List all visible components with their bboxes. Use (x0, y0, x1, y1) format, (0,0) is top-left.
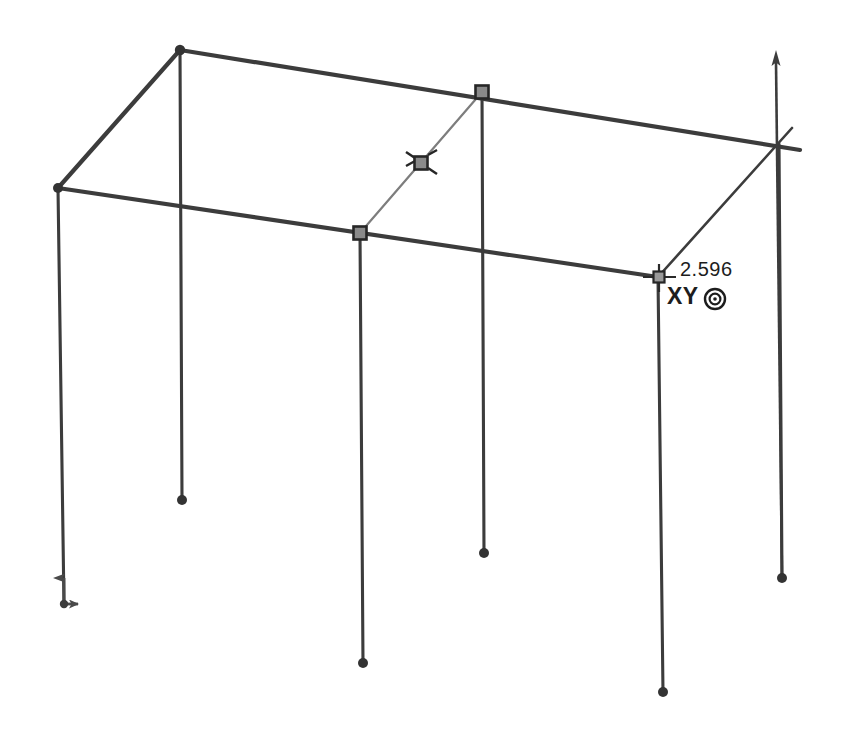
node-base-col-c[interactable] (479, 548, 489, 558)
node-front-mid-top[interactable] (354, 227, 367, 240)
structural-model-drawing[interactable] (0, 0, 861, 732)
beam-left-top[interactable] (58, 50, 180, 188)
beam-back-top[interactable] (180, 50, 800, 150)
dimension-value-label: 2.596 (680, 258, 733, 281)
crosshair-center-square[interactable] (654, 272, 665, 283)
node-brace-release-mid[interactable] (406, 150, 437, 174)
axis-origin-dot (60, 600, 68, 608)
model-viewport[interactable]: 2.596 XY (0, 0, 861, 732)
node-marker-group[interactable] (53, 45, 787, 697)
node-base-col-d[interactable] (658, 687, 668, 697)
column-group[interactable] (58, 50, 782, 692)
release-node-square[interactable] (415, 157, 428, 170)
node-back-left-top[interactable] (175, 45, 185, 55)
target-circle-icon (705, 289, 725, 309)
column-back-left[interactable] (180, 50, 182, 500)
column-front-mid[interactable] (360, 233, 363, 663)
node-base-col-e[interactable] (777, 573, 787, 583)
work-plane-label: XY (667, 283, 699, 310)
brace-group[interactable] (360, 92, 792, 277)
brace-right-bay[interactable] (658, 128, 792, 277)
node-base-col-b[interactable] (358, 658, 368, 668)
release-tick-se (428, 168, 437, 174)
column-front-left[interactable] (58, 188, 64, 606)
column-front-right[interactable] (658, 277, 663, 692)
node-front-left-top[interactable] (53, 183, 63, 193)
column-back-mid[interactable] (482, 92, 484, 553)
node-back-mid-top[interactable] (476, 86, 489, 99)
node-base-col-a[interactable] (177, 495, 187, 505)
